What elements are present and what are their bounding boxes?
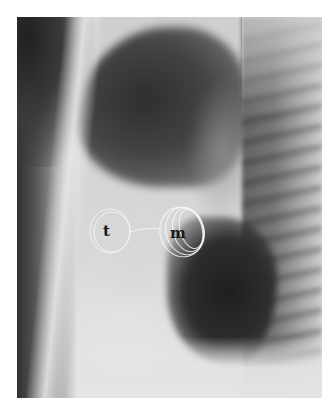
- valve-rings: [17, 17, 322, 398]
- label-mitral: m: [170, 226, 186, 241]
- chest-xray-image: t m: [17, 17, 322, 398]
- tricuspid-ring-icon: [90, 209, 130, 253]
- label-tricuspid: t: [103, 224, 110, 239]
